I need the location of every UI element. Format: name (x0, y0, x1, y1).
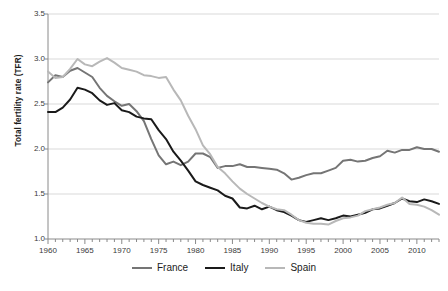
legend-swatch-icon (205, 267, 225, 269)
legend-label: Italy (230, 262, 248, 273)
legend-item-italy[interactable]: Italy (205, 262, 248, 273)
legend-label: Spain (290, 262, 316, 273)
legend-item-spain[interactable]: Spain (265, 262, 316, 273)
legend-item-france[interactable]: France (132, 262, 188, 273)
x-tick-label: 1980 (181, 247, 211, 255)
x-tick-label: 1995 (291, 247, 321, 255)
x-tick-label: 2000 (328, 247, 358, 255)
series-line-france (48, 68, 439, 180)
x-tick-label: 1965 (70, 247, 100, 255)
x-tick-label: 1960 (33, 247, 63, 255)
legend-swatch-icon (265, 267, 285, 269)
series-line-spain (48, 58, 439, 225)
legend-label: France (157, 262, 188, 273)
x-tick-label: 1970 (107, 247, 137, 255)
legend-swatch-icon (132, 267, 152, 269)
x-tick-label: 1985 (217, 247, 247, 255)
x-tick-label: 1990 (254, 247, 284, 255)
fertility-rate-line-chart: Total fertility rate (TFR) 1.01.52.02.53… (0, 0, 448, 291)
x-tick-label: 2010 (402, 247, 432, 255)
x-tick-label: 1975 (144, 247, 174, 255)
x-tick-label: 2005 (365, 247, 395, 255)
chart-legend: FranceItalySpain (0, 262, 448, 273)
